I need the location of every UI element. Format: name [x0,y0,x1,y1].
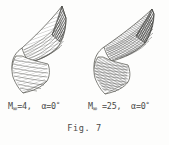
right-mach-value: =25, [97,101,121,111]
right-degree-icon: ° [146,101,150,109]
left-mach-value: =4, [17,101,32,111]
figure-container: M∞=4, α=0° M∞ =25, α=0° Fig. 7 [0,0,169,145]
right-condition-label: M∞ =25, α=0° [88,99,150,115]
figure-caption: Fig. 7 [0,123,169,133]
condition-labels-row: M∞=4, α=0° M∞ =25, α=0° [0,99,169,114]
left-lower-hatching [12,56,49,93]
right-alpha-value: =0 [136,101,146,111]
left-alpha-value: =0 [46,101,56,111]
left-shape-group [12,6,66,93]
left-condition-label: M∞=4, α=0° [8,99,60,115]
right-shape-group [94,9,154,94]
left-degree-icon: ° [56,101,60,109]
